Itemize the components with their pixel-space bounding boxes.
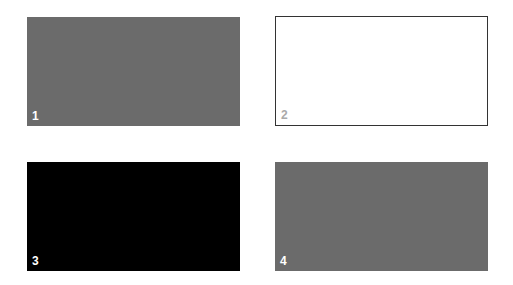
swatch-panel-1: 1 (27, 17, 240, 126)
panel-number-label: 2 (281, 109, 288, 121)
swatch-panel-3: 3 (27, 162, 240, 271)
panel-number-label: 4 (280, 255, 287, 267)
swatch-panel-4: 4 (275, 162, 488, 271)
panel-number-label: 1 (32, 110, 39, 122)
swatch-panel-2: 2 (275, 16, 488, 126)
panel-number-label: 3 (32, 255, 39, 267)
